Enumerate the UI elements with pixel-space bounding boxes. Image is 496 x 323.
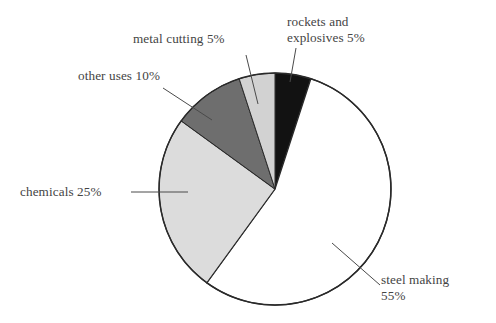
pie-label-chemicals: chemicals 25% [20, 184, 150, 200]
pie-label-other-uses: other uses 10% [78, 68, 208, 84]
pie-label-rockets-and-explosives: rockets and explosives 5% [287, 14, 407, 46]
pie-label-steel-making: steel making 55% [381, 272, 491, 304]
pie-chart-figure: rockets and explosives 5% metal cutting … [0, 0, 496, 323]
pie-label-metal-cutting: metal cutting 5% [133, 31, 263, 47]
